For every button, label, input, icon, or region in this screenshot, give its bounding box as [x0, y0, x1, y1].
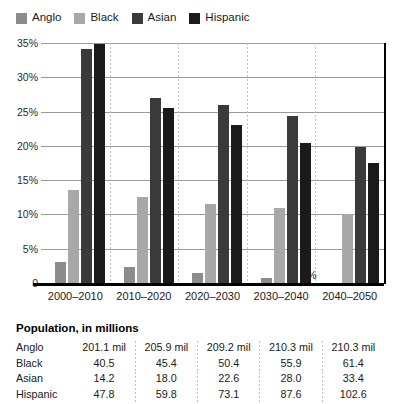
y-axis-tick-label: 25%	[0, 106, 38, 118]
bar-black	[68, 190, 79, 283]
table-row: Anglo201.1 mil205.9 mil209.2 mil210.3 mi…	[16, 341, 384, 357]
x-axis-baseline	[33, 283, 384, 286]
group-separator	[110, 43, 111, 283]
x-axis-label: 2010–2020	[110, 290, 179, 302]
group-separator	[247, 43, 248, 283]
chart-legend: Anglo Black Asian Hispanic	[16, 9, 249, 27]
bar-anglo	[55, 262, 66, 283]
bar-group	[261, 43, 311, 283]
legend-item-anglo: Anglo	[16, 12, 61, 24]
square-swatch-icon	[132, 13, 143, 24]
table-row-label: Hispanic	[16, 388, 73, 404]
bar-asian	[355, 147, 366, 283]
square-swatch-icon	[74, 13, 85, 24]
table-cell: 59.8	[136, 388, 197, 404]
table-cell: 73.1	[198, 388, 259, 404]
bar-black	[274, 208, 285, 283]
legend-label: Anglo	[32, 12, 61, 24]
square-swatch-icon	[16, 13, 27, 24]
x-axis-label: 2030–2040	[247, 290, 316, 302]
x-axis-label: 2040–2050	[315, 290, 384, 302]
bar-hispanic	[163, 108, 174, 283]
group-separator	[178, 43, 179, 283]
bar-group	[55, 43, 105, 283]
table-cell: 102.6	[323, 388, 384, 404]
table-cell: 47.8	[73, 388, 134, 404]
bar-hispanic	[94, 44, 105, 283]
bar-black	[137, 197, 148, 283]
legend-label: Hispanic	[205, 12, 249, 24]
bar-chart-plot-area: 05%10%15%20%25%30%35% 0%	[41, 43, 384, 283]
table-cell: 209.2 mil	[198, 341, 259, 357]
bar-asian	[287, 116, 298, 283]
x-axis-label: 2000–2010	[41, 290, 110, 302]
table-cell: 210.3 mil	[323, 341, 384, 357]
y-axis-tick-label: 5%	[0, 243, 38, 255]
table-cell: 45.4	[136, 357, 197, 373]
population-table: Population, in millions Anglo201.1 mil20…	[16, 322, 384, 404]
table-cell: 87.6	[260, 388, 321, 404]
y-axis-tick-label: 10%	[0, 208, 38, 220]
legend-item-black: Black	[74, 12, 118, 24]
table-cell: 50.4	[198, 357, 259, 373]
y-axis-tick-label: 20%	[0, 140, 38, 152]
bar-hispanic	[300, 143, 311, 283]
population-data-table: Anglo201.1 mil205.9 mil209.2 mil210.3 mi…	[16, 341, 384, 404]
table-cell: 201.1 mil	[73, 341, 134, 357]
table-cell: 33.4	[323, 372, 384, 388]
table-row-label: Black	[16, 357, 73, 373]
table-cell: 22.6	[198, 372, 259, 388]
table-row: Black40.545.450.455.961.4	[16, 357, 384, 373]
table-row-label: Asian	[16, 372, 73, 388]
x-axis-label: 2020–2030	[178, 290, 247, 302]
bar-hispanic	[231, 125, 242, 283]
legend-label: Asian	[148, 12, 177, 24]
y-axis-tick-label: 15%	[0, 174, 38, 186]
table-cell: 28.0	[260, 372, 321, 388]
bar-asian	[150, 98, 161, 283]
bar-asian	[218, 105, 229, 283]
legend-item-asian: Asian	[132, 12, 177, 24]
square-swatch-icon	[189, 13, 200, 24]
bar-anglo	[124, 267, 135, 283]
legend-item-hispanic: Hispanic	[189, 12, 249, 24]
bar-black	[205, 204, 216, 283]
bar-group	[192, 43, 242, 283]
bar-hispanic	[368, 163, 379, 283]
bar-black	[342, 214, 353, 283]
table-row: Hispanic47.859.873.187.6102.6	[16, 388, 384, 404]
table-cell: 210.3 mil	[260, 341, 321, 357]
table-cell: 205.9 mil	[136, 341, 197, 357]
group-separator	[315, 43, 316, 283]
y-axis-line	[384, 43, 386, 284]
y-axis-tick-label: 35%	[0, 37, 38, 49]
table-row-label: Anglo	[16, 341, 73, 357]
table-cell: 18.0	[136, 372, 197, 388]
bar-anglo	[192, 273, 203, 283]
zero-value-annotation: 0%	[301, 269, 316, 281]
table-cell: 61.4	[323, 357, 384, 373]
table-cell: 55.9	[260, 357, 321, 373]
bar-group	[124, 43, 174, 283]
legend-label: Black	[90, 12, 118, 24]
bar-group	[329, 43, 379, 283]
y-axis-tick-label: 30%	[0, 71, 38, 83]
table-cell: 40.5	[73, 357, 134, 373]
table-title: Population, in millions	[16, 322, 384, 334]
table-cell: 14.2	[73, 372, 134, 388]
bar-asian	[81, 49, 92, 284]
table-row: Asian14.218.022.628.033.4	[16, 372, 384, 388]
